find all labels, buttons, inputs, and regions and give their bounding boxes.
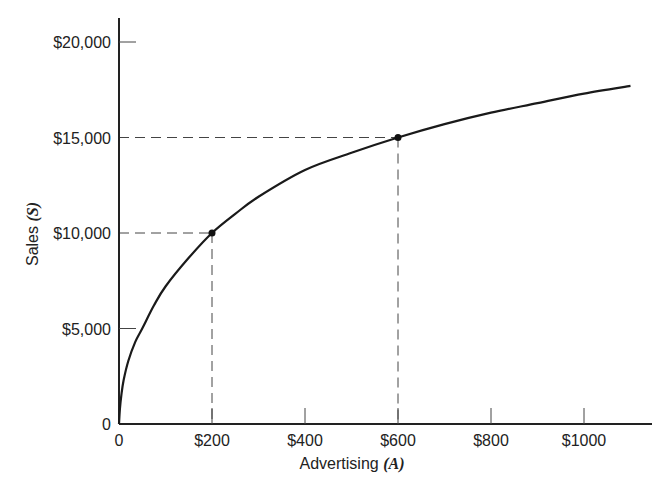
x-axis-variable: (A) <box>383 455 404 473</box>
highlighted-points <box>209 134 402 237</box>
y-tick-label: $10,000 <box>53 225 111 242</box>
y-tick-label: $20,000 <box>53 34 111 51</box>
sales-advertising-chart: 0$200$400$600$800$1000 0$5,000$10,000$15… <box>0 0 664 484</box>
x-tick-label: $800 <box>473 432 509 449</box>
x-tick-label: $600 <box>380 432 416 449</box>
data-point-marker <box>209 230 216 237</box>
axes <box>119 18 652 424</box>
x-axis-ticks: 0$200$400$600$800$1000 <box>115 408 607 449</box>
x-tick-label: $1000 <box>562 432 607 449</box>
y-tick-label: $15,000 <box>53 130 111 147</box>
y-axis-title-text: Sales <box>24 226 41 266</box>
x-axis-title-text: Advertising <box>300 455 379 472</box>
x-tick-label: $400 <box>287 432 323 449</box>
x-tick-label: $200 <box>194 432 230 449</box>
y-tick-label: 0 <box>102 416 111 433</box>
x-axis-title: Advertising (A) <box>300 455 405 473</box>
data-point-marker <box>395 134 402 141</box>
sales-curve <box>119 86 631 424</box>
y-axis-variable: (S) <box>24 202 42 222</box>
y-tick-label: $5,000 <box>62 321 111 338</box>
x-tick-label: 0 <box>115 432 124 449</box>
y-axis-title: Sales (S) <box>24 202 42 266</box>
reference-lines <box>119 138 398 425</box>
